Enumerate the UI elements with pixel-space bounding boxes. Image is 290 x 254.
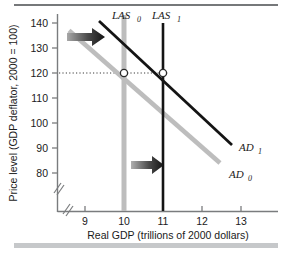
x-tick-9: 9: [82, 215, 88, 227]
y-tick-100: 100: [30, 117, 48, 129]
y-axis-tick-labels: 140 130 120 110 100 90 80: [30, 17, 48, 179]
ad0-curve: [69, 31, 220, 164]
y-tick-120: 120: [30, 67, 48, 79]
ad1-label-subscript: 1: [258, 147, 262, 156]
las1-label: LAS 1: [151, 9, 181, 24]
x-tick-13: 13: [235, 215, 247, 227]
y-tick-80: 80: [36, 167, 48, 179]
y-tick-130: 130: [30, 42, 48, 54]
x-axis-break-icon: [63, 204, 73, 216]
x-axis-title: Real GDP (trillions of 2000 dollars): [87, 229, 248, 241]
ad0-label-text: AD: [228, 168, 244, 180]
las1-label-subscript: 1: [177, 15, 181, 24]
ad1-label-text: AD: [238, 141, 254, 153]
equilibrium-point-1: [159, 69, 166, 76]
y-tick-140: 140: [30, 17, 48, 29]
ad0-label: AD 0: [228, 168, 252, 183]
ad1-curve: [99, 21, 232, 145]
x-axis-tick-labels: 9 10 11 12 13: [82, 215, 247, 227]
ad0-label-subscript: 0: [248, 174, 252, 183]
las1-label-text: LAS: [151, 9, 171, 21]
as-ad-chart: 140 130 120 110 100 90 80 9 10 11 12 13 …: [0, 0, 290, 254]
y-tick-110: 110: [31, 92, 48, 104]
x-tick-11: 11: [158, 215, 169, 227]
economics-figure: 140 130 120 110 100 90 80 9 10 11 12 13 …: [0, 0, 290, 254]
y-tick-90: 90: [36, 142, 48, 154]
x-tick-10: 10: [118, 215, 130, 227]
y-axis-break-icon: [54, 183, 64, 195]
las0-label-text: LAS: [111, 9, 131, 21]
ad1-label: AD 1: [238, 141, 262, 156]
x-tick-12: 12: [196, 215, 208, 227]
y-axis-title: Price level (GDP deflator, 2000 = 100): [7, 25, 19, 202]
las0-label-subscript: 0: [137, 15, 141, 24]
equilibrium-point-0: [120, 69, 127, 76]
las-shift-arrow-icon: [131, 156, 164, 174]
